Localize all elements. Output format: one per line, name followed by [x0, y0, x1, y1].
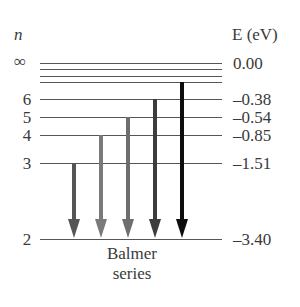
level-label-n-infinity: ∞ [5, 53, 35, 70]
energy-value-n5: –0.54 [233, 109, 271, 126]
energy-value-infinity: 0.00 [233, 55, 263, 72]
transition-arrow-3-to-2 [68, 163, 80, 238]
transition-arrow-4-to-2 [95, 135, 107, 238]
level-label-n2: 2 [12, 231, 42, 248]
level-label-n6: 6 [12, 91, 42, 108]
transition-arrow-7-to-2 [176, 82, 188, 238]
energy-header: E (eV) [232, 26, 278, 43]
energy-value-n6: –0.38 [233, 91, 271, 108]
transition-arrows [68, 82, 188, 238]
series-caption-line1: Balmer [82, 245, 182, 262]
series-caption-line2: series [82, 265, 182, 282]
level-label-n5: 5 [12, 109, 42, 126]
energy-value-n4: –0.85 [233, 127, 271, 144]
level-label-n4: 4 [12, 127, 42, 144]
energy-value-n3: –1.51 [233, 155, 271, 172]
quantum-number-header: n [14, 26, 23, 43]
energy-level-diagram: n E (eV) ∞ 6 5 4 3 2 0.00 –0.38 –0.54 –0… [0, 0, 300, 307]
energy-levels [40, 64, 222, 240]
energy-value-n2: –3.40 [233, 231, 271, 248]
level-label-n3: 3 [12, 155, 42, 172]
transition-arrow-6-to-2 [149, 99, 161, 238]
